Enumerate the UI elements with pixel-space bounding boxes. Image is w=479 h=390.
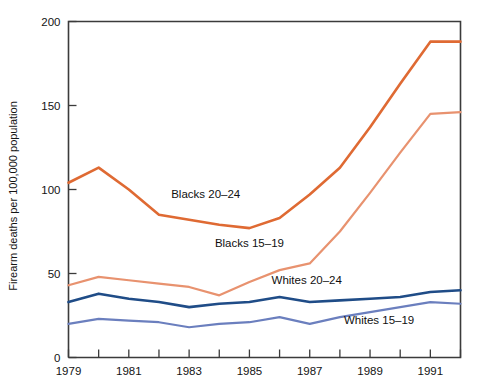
y-tick-label: 150: [41, 100, 60, 112]
x-tick-label: 1985: [237, 365, 263, 377]
y-axis-tick-labels: 050100150200: [41, 16, 60, 364]
y-tick-label: 200: [41, 16, 60, 28]
y-tick-label: 100: [41, 184, 60, 196]
x-tick-label: 1987: [297, 365, 323, 377]
x-tick-label: 1983: [176, 365, 202, 377]
x-tick-label: 1991: [418, 365, 444, 377]
x-axis-ticks: [69, 350, 461, 358]
y-tick-label: 50: [48, 268, 61, 280]
data-series-lines: [69, 42, 461, 328]
x-tick-label: 1981: [116, 365, 142, 377]
x-tick-label: 1989: [357, 365, 383, 377]
chart-canvas: 050100150200 197919811983198519871989199…: [0, 0, 479, 390]
y-axis-title: Firearm deaths per 100,000 population: [7, 101, 19, 291]
y-axis-title-label: Firearm deaths per 100,000 population: [7, 101, 19, 291]
series-line-blacks-15-19: [69, 112, 461, 295]
firearm-deaths-line-chart: 050100150200 197919811983198519871989199…: [0, 0, 479, 390]
y-tick-label: 0: [54, 352, 60, 364]
series-annotation-whites-20-24: Whites 20–24: [272, 274, 343, 286]
series-line-blacks-20-24: [69, 42, 461, 228]
x-axis-tick-labels: 1979198119831985198719891991: [56, 365, 443, 377]
series-annotation-whites-15-19: Whites 15–19: [344, 314, 414, 326]
y-axis-ticks: [69, 22, 77, 358]
x-tick-label: 1979: [56, 365, 82, 377]
series-annotation-blacks-20-24: Blacks 20–24: [171, 188, 241, 200]
series-line-whites-20-24: [69, 290, 461, 307]
series-annotation-blacks-15-19: Blacks 15–19: [215, 237, 284, 249]
